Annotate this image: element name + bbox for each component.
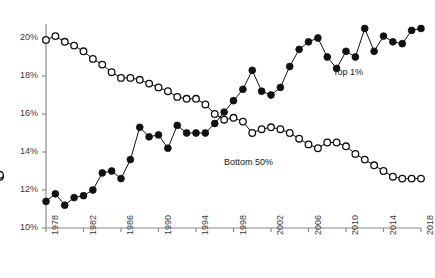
x-axis-tick-label: 1986	[125, 215, 135, 235]
series-annotation-top-1pct: Top 1%	[333, 67, 363, 77]
x-axis-tick-label: 1998	[238, 215, 248, 235]
x-axis-tick-label: 1994	[200, 215, 210, 235]
x-axis-tick-label: 1990	[163, 215, 173, 235]
x-axis-tick-label: 1978	[50, 215, 60, 235]
x-axis-tick-label: 2014	[388, 215, 398, 235]
y-axis-tick-label: 10%	[4, 222, 38, 232]
x-axis-tick-label: 2018	[425, 215, 435, 235]
x-axis-tick-label: 2006	[313, 215, 323, 235]
x-axis-tick-label: 2002	[275, 215, 285, 235]
x-axis-tick-label: 1982	[88, 215, 98, 235]
y-axis-tick-label: 14%	[4, 146, 38, 156]
series-annotation-bottom-50pct: Bottom 50%	[224, 157, 273, 167]
y-axis-tick-label: 20%	[4, 32, 38, 42]
y-axis-tick-label: 16%	[4, 108, 38, 118]
series-markers-bottom-50pct	[0, 33, 424, 182]
y-axis-tick-label: 12%	[4, 184, 38, 194]
x-axis-tick-label: 2010	[350, 215, 360, 235]
y-axis-tick-label: 18%	[4, 70, 38, 80]
